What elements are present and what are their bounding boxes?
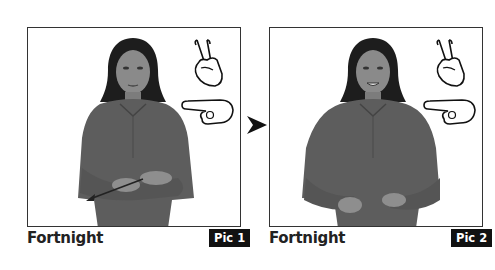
- badge-pic-2: Pic 2: [451, 229, 492, 247]
- picture-frame-2: [269, 27, 483, 227]
- badge-pic-1: Pic 1: [209, 229, 250, 247]
- v-handshape-icon: [433, 38, 467, 90]
- caption-1: Fortnight: [27, 229, 103, 247]
- picture-frame-1: [27, 27, 241, 227]
- pointing-hand-icon: [422, 97, 478, 127]
- caption-2: Fortnight: [269, 229, 345, 247]
- v-handshape-icon: [191, 38, 225, 90]
- pointing-hand-icon: [180, 97, 236, 127]
- arrow-right-icon: [246, 115, 268, 135]
